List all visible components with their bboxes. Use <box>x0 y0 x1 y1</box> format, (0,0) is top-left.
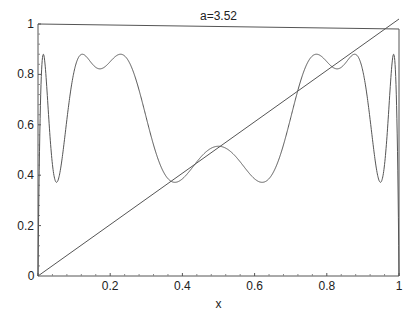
series <box>38 19 399 276</box>
axes <box>38 24 399 276</box>
y-tick-label: 0.6 <box>17 118 34 132</box>
y-tick-label: 0.8 <box>17 67 34 81</box>
x-tick-label: 0.6 <box>246 279 263 293</box>
x-tick-label: 0.2 <box>102 279 119 293</box>
fourth-iterate-curve <box>38 54 399 276</box>
x-tick-label: 0.8 <box>318 279 335 293</box>
chart-title: a=3.52 <box>200 9 237 23</box>
y-tick-label: 0.2 <box>17 219 34 233</box>
plot-top-border <box>38 24 399 29</box>
identity-line <box>38 19 399 276</box>
y-tick-label: 1 <box>27 17 34 31</box>
x-axis-label: x <box>216 297 222 311</box>
x-tick-label: 0.4 <box>174 279 191 293</box>
x-tick-label: 1 <box>396 279 403 293</box>
ticks: 00.20.40.60.810.20.40.60.81 <box>17 17 402 293</box>
y-tick-label: 0.4 <box>17 168 34 182</box>
chart: 00.20.40.60.810.20.40.60.81 a=3.52 x <box>0 0 416 320</box>
x-tick-label: 0 <box>28 269 35 283</box>
